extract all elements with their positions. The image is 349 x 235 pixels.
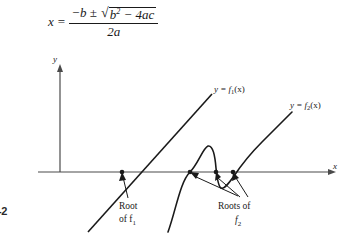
formula-lhs: x <box>48 14 54 30</box>
leader-arrow-root-f1-icon <box>119 172 126 181</box>
formula-denominator: 2a <box>105 24 122 39</box>
page-marker: -2 <box>0 205 7 217</box>
curve-f1-label-main: y = f <box>213 84 233 94</box>
curve-f1 <box>88 94 212 232</box>
annotation-root-f1-lead: of f <box>119 214 133 224</box>
annotation-root-f1-line1: Root <box>119 201 138 211</box>
formula-numerator-lead: −b ± <box>71 5 97 20</box>
y-axis-arrow-icon <box>57 64 63 72</box>
quadratic-formula: x = −b ± √ b2 − 4ac 2a <box>48 6 158 39</box>
curve-f2-label: y = f2(x) <box>289 100 321 111</box>
annotation-roots-f2-line1: Roots of <box>218 201 251 211</box>
annotation-roots-f2-sub: 2 <box>238 220 242 228</box>
annotation-root-f1-sub: 1 <box>132 219 136 227</box>
radicand-rest: − 4ac <box>123 7 154 22</box>
formula-equals: = <box>58 14 65 30</box>
radical-sign: √ <box>101 6 109 22</box>
leader-line-root-f2-c <box>236 178 248 197</box>
y-axis-label: y <box>52 54 57 64</box>
formula-radicand: b2 − 4ac <box>109 7 157 22</box>
curve-f1-label-tail: (x) <box>234 84 245 94</box>
radicand-exponent: 2 <box>116 7 120 16</box>
curve-f2-label-main: y = f <box>289 100 309 110</box>
x-axis-label: x <box>332 161 337 171</box>
annotation-root-f1-line2: of f1 <box>119 214 136 227</box>
figure-page: x = −b ± √ b2 − 4ac 2a y x y = f1(x <box>0 0 349 235</box>
annotation-roots-f2-line2: f2 <box>235 215 242 228</box>
curve-f2-label-tail: (x) <box>310 100 321 110</box>
formula-numerator: −b ± √ b2 − 4ac <box>69 6 158 23</box>
formula-fraction: −b ± √ b2 − 4ac 2a <box>69 6 158 39</box>
square-root-icon: √ b2 − 4ac <box>101 6 156 22</box>
graph-area: y x y = f1(x) y = f2(x) Root of f1 <box>0 50 349 235</box>
curve-f1-label: y = f1(x) <box>213 84 245 95</box>
